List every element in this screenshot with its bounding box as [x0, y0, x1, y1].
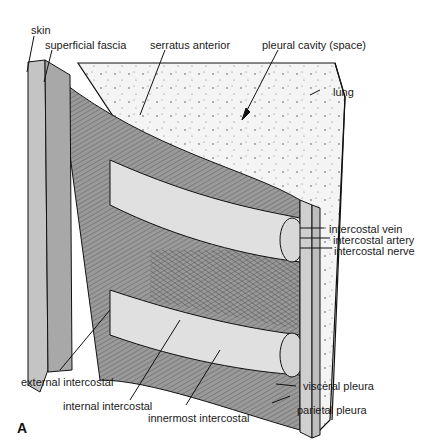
label-parietal-pleura: parietal pleura — [297, 404, 367, 416]
label-superficial-fascia: superficial fascia — [45, 39, 126, 51]
label-visceral-pleura: visceral pleura — [303, 380, 374, 392]
label-lung: lung — [333, 86, 354, 98]
skin-layer — [28, 60, 72, 392]
panel-letter: A — [17, 420, 27, 436]
label-skin: skin — [31, 24, 51, 36]
label-intercostal-nerve: intercostal nerve — [334, 245, 415, 257]
label-external-intercostal: external intercostal — [21, 376, 113, 388]
label-internal-intercostal: internal intercostal — [63, 400, 152, 412]
pleura-layers — [300, 200, 320, 438]
label-innermost-intercostal: innermost intercostal — [148, 412, 250, 424]
label-pleural-cavity: pleural cavity (space) — [262, 39, 366, 51]
label-serratus-anterior: serratus anterior — [150, 39, 230, 51]
